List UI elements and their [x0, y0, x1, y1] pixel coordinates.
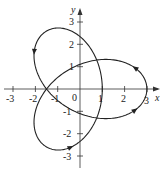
- y-tick-label: 3: [69, 16, 74, 27]
- y-tick-label: 2: [69, 39, 74, 50]
- parametric-curve-plot: -3 -2 -1 0 1 2 3 x 3 2 1 -1 -2 -3 y: [0, 0, 164, 171]
- y-tick-label: -2: [63, 128, 71, 139]
- y-axis-label: y: [70, 4, 76, 15]
- y-tick-label: -3: [63, 151, 71, 162]
- x-tick-label: 3: [144, 95, 149, 106]
- x-tick-label: -2: [29, 93, 37, 104]
- x-axis-label: x: [154, 92, 160, 103]
- direction-arrow-icon: [31, 49, 37, 55]
- origin-label: 0: [72, 92, 77, 103]
- x-tick-label: 2: [121, 93, 126, 104]
- y-tick-label: 1: [69, 61, 74, 72]
- x-axis-arrow-icon: [153, 87, 160, 92]
- y-axis-arrow-icon: [78, 8, 83, 15]
- direction-arrow-icon: [67, 144, 75, 151]
- x-tick-label: -3: [6, 93, 14, 104]
